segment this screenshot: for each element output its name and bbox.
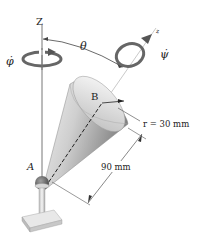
length-ext-line-top	[128, 128, 146, 139]
length-ext-line-bottom	[52, 182, 90, 205]
phi-dot-label: φ̇	[6, 55, 14, 68]
psi-dot-label: ψ̇	[160, 48, 169, 61]
top-spinning-cone-diagram: Z z θ φ̇ ψ̇ B r = 30 mm 90 mm A	[0, 0, 200, 234]
point-a-label: A	[26, 161, 34, 172]
radius-label: r = 30 mm	[143, 119, 189, 129]
theta-label: θ	[80, 40, 87, 53]
psi-dot-arrowhead	[141, 34, 152, 44]
z-axis-label: Z	[36, 16, 43, 27]
point-b-label: B	[91, 91, 98, 102]
support-post	[39, 188, 45, 215]
body-z-axis-label: z	[155, 27, 160, 34]
theta-arrowhead-left	[43, 37, 48, 41]
length-label: 90 mm	[101, 162, 131, 172]
